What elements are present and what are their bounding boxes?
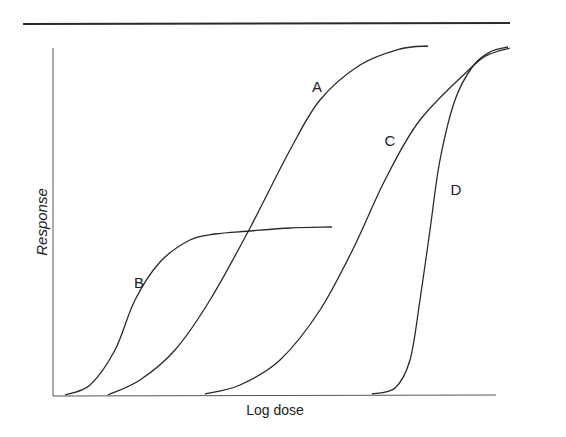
curve-label-a: A	[312, 78, 322, 95]
curve-label-c: C	[385, 132, 396, 149]
curve-b	[65, 227, 332, 395]
y-axis-label: Response	[33, 188, 50, 256]
dose-response-chart: A B C D Log dose Response	[0, 0, 566, 437]
x-axis	[53, 395, 496, 396]
curve-label-d: D	[451, 181, 462, 198]
curve-c	[205, 48, 510, 394]
curve-label-b: B	[134, 274, 144, 291]
x-axis-label: Log dose	[246, 402, 304, 418]
curve-a	[108, 46, 428, 395]
top-rule	[23, 23, 510, 24]
curve-d	[372, 47, 508, 394]
